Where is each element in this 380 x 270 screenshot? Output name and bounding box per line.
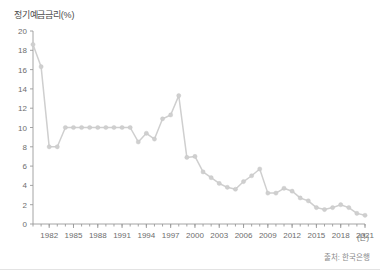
series-data-point [363,213,367,217]
x-axis-tick-label: 2006 [235,231,253,240]
series-data-point [241,179,245,183]
series-data-point [250,174,254,178]
series-data-point [104,125,108,129]
series-data-point [55,145,59,149]
y-axis-tick-label: 0 [23,220,28,229]
series-data-point [233,187,237,191]
series-data-point [47,145,51,149]
series-data-point [322,207,326,211]
y-axis-tick-label: 8 [23,143,28,152]
series-data-point [128,125,132,129]
y-axis-tick-label: 20 [18,27,27,36]
y-axis-tick-label: 12 [18,104,27,113]
x-axis-tick-label: 2015 [308,231,326,240]
series-data-point [201,170,205,174]
y-axis-tick-label: 18 [18,46,27,55]
series-data-point [217,181,221,185]
series-polyline [33,45,365,216]
series-data-point [112,125,116,129]
series-data-point [185,155,189,159]
series-data-point [96,125,100,129]
y-axis-tick-label: 4 [23,181,28,190]
data-series-deposit-rate [31,42,367,217]
x-axis-tick-label: 1994 [137,231,155,240]
y-axis-tick-label: 16 [18,66,27,75]
series-data-point [31,42,35,46]
y-axis-tick-label: 14 [18,85,27,94]
series-data-point [258,167,262,171]
series-data-point [266,191,270,195]
series-data-point [177,94,181,98]
x-axis-tick-label: 1991 [113,231,131,240]
y-axis: 02468101214161820 [18,27,33,229]
series-data-point [306,199,310,203]
x-axis-tick-label: 1988 [89,231,107,240]
x-axis-tick-label: 2012 [283,231,301,240]
line-chart-plot: 02468101214161820 1982198519881991199419… [0,0,380,270]
series-data-point [193,154,197,158]
y-axis-tick-label: 2 [23,201,28,210]
series-data-point [71,125,75,129]
x-axis-tick-label: 2003 [210,231,228,240]
y-axis-tick-label: 6 [23,162,28,171]
series-data-point [209,176,213,180]
series-data-point [160,117,164,121]
series-data-point [282,186,286,190]
series-data-point [314,205,318,209]
series-data-point [339,203,343,207]
series-data-point [331,205,335,209]
series-data-point [355,211,359,215]
series-data-point [169,113,173,117]
x-axis-tick-label: 2018 [332,231,350,240]
x-axis: 1982198519881991199419972000200320062009… [33,224,374,240]
series-data-point [79,125,83,129]
y-axis-tick-label: 10 [18,124,27,133]
series-data-point [39,65,43,69]
source-attribution: 출처: 한국은행 [324,251,370,262]
series-data-point [225,185,229,189]
series-data-point [136,140,140,144]
series-data-point [88,125,92,129]
x-axis-tick-label: 2000 [186,231,204,240]
series-data-point [290,189,294,193]
x-axis-tick-label: 1982 [40,231,58,240]
series-data-point [144,131,148,135]
series-data-point [274,191,278,195]
series-data-point [120,125,124,129]
chart-figure: 정기예금금리(%) 02468101214161820 198219851988… [0,0,380,270]
series-data-point [347,205,351,209]
x-axis-tick-label: 1997 [162,231,180,240]
x-axis-tick-label: 2009 [259,231,277,240]
x-axis-unit-label: (년) [357,231,369,242]
x-axis-tick-label: 1985 [65,231,83,240]
series-data-point [63,125,67,129]
series-data-point [298,196,302,200]
series-data-point [152,137,156,141]
